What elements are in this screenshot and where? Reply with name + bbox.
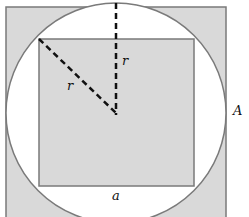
diagram-canvas: r r A a bbox=[0, 0, 249, 217]
label-a: a bbox=[112, 188, 120, 203]
label-r-diagonal: r bbox=[67, 78, 74, 93]
label-r-vertical: r bbox=[122, 53, 129, 68]
label-A: A bbox=[232, 103, 242, 118]
